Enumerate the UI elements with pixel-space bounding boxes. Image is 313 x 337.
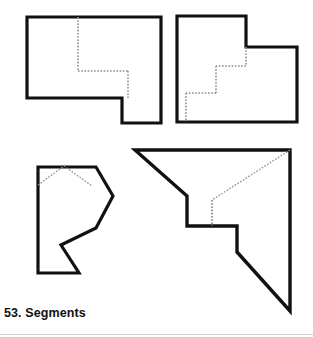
figure-top-right [177, 16, 297, 122]
figure-bottom-right [135, 150, 290, 311]
page-bottom-rule [0, 334, 313, 335]
figure-top-left [27, 17, 161, 123]
figures-canvas [0, 0, 313, 337]
figure-bottom-left-dotted-1 [38, 166, 92, 186]
figure-top-right-outline [177, 16, 297, 122]
figure-caption: 53. Segments [4, 306, 86, 320]
figure-bottom-right-outline [135, 150, 290, 311]
figure-top-left-outline [27, 17, 161, 123]
figure-bottom-right-dotted-1 [212, 150, 290, 200]
figure-bottom-left-outline [38, 167, 113, 273]
figure-bottom-left [38, 166, 113, 273]
